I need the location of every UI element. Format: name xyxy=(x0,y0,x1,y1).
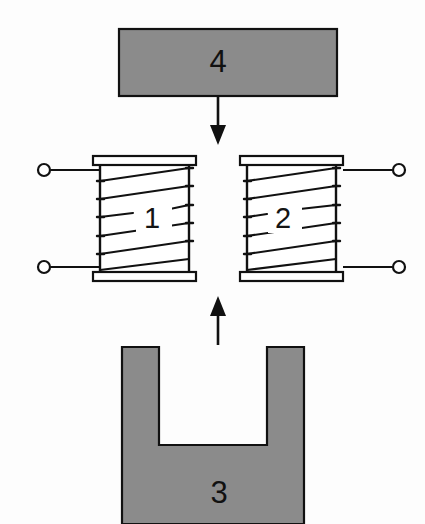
part-3-yoke-core: 3 xyxy=(122,347,304,524)
part-label-2: 2 xyxy=(275,202,291,234)
part-label-1: 1 xyxy=(144,202,160,234)
terminal-right-bottom-icon xyxy=(393,261,405,273)
coil-left-flange-top xyxy=(93,156,196,165)
terminal-left-bottom-icon xyxy=(38,261,50,273)
arrow-down-head xyxy=(210,125,226,145)
technical-diagram: 4 xyxy=(0,0,425,524)
part-label-4: 4 xyxy=(209,44,226,79)
coil-right-flange-bottom xyxy=(240,272,343,281)
part-1-coil-left: 1 xyxy=(38,156,196,281)
terminal-right-top-icon xyxy=(393,164,405,176)
coil-right-flange-top xyxy=(240,156,343,165)
part-4-armature-bar: 4 xyxy=(119,29,337,96)
part-2-coil-right: 2 xyxy=(240,156,405,281)
arrow-down-group xyxy=(210,97,226,145)
coil-left-flange-bottom xyxy=(93,272,196,281)
coil-left-leads xyxy=(38,164,100,273)
diagram-canvas: 4 xyxy=(0,0,425,524)
arrow-up-head xyxy=(210,296,226,316)
arrow-up-group xyxy=(210,296,226,345)
part-label-3: 3 xyxy=(210,475,227,510)
coil-right-leads xyxy=(343,164,405,273)
armature-bar-body xyxy=(119,29,337,96)
terminal-left-top-icon xyxy=(38,164,50,176)
